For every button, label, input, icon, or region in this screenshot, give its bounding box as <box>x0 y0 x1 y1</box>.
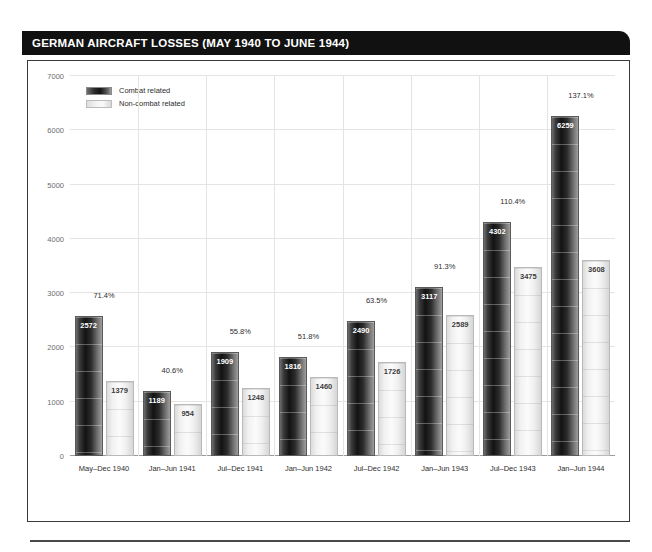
x-axis-tick-label: Jul–Dec 1941 <box>217 464 263 473</box>
bar-combat[interactable]: 1816 <box>279 357 307 456</box>
bar-noncombat[interactable]: 1726 <box>378 362 406 456</box>
bar-value-label: 1909 <box>212 357 238 366</box>
bar-shading <box>379 363 405 455</box>
bottom-divider <box>30 540 630 542</box>
bar-combat[interactable]: 3117 <box>415 287 443 456</box>
bar-shading <box>280 358 306 455</box>
x-axis-tick-label: Jul–Dec 1943 <box>490 464 536 473</box>
category-separator <box>547 76 548 456</box>
y-axis-tick-label: 6000 <box>47 126 64 135</box>
bar-shading <box>447 316 473 455</box>
bar-value-label: 1379 <box>107 386 133 395</box>
bar-value-label: 3475 <box>515 272 541 281</box>
bar-noncombat[interactable]: 1248 <box>242 388 270 456</box>
category-separator <box>138 76 139 456</box>
bar-value-label: 1726 <box>379 367 405 376</box>
percent-annotation: 63.5% <box>366 296 387 305</box>
percent-annotation: 40.6% <box>162 366 183 375</box>
percent-annotation: 91.3% <box>434 262 455 271</box>
bar-noncombat[interactable]: 3475 <box>514 267 542 456</box>
category-separator <box>206 76 207 456</box>
percent-annotation: 71.4% <box>93 291 114 300</box>
bar-value-label: 2490 <box>348 326 374 335</box>
bar-value-label: 1248 <box>243 393 269 402</box>
bar-shading <box>515 268 541 455</box>
bar-value-label: 2589 <box>447 320 473 329</box>
x-axis-tick-label: May–Dec 1940 <box>79 464 129 473</box>
bar-combat[interactable]: 1189 <box>143 391 171 456</box>
y-axis-tick-label: 2000 <box>47 343 64 352</box>
bar-noncombat[interactable]: 1379 <box>106 381 134 456</box>
bar-value-label: 6259 <box>552 121 578 130</box>
chart-panel: Combat related Non-combat related 010002… <box>27 60 630 522</box>
x-axis-tick-label: Jan–Jun 1942 <box>285 464 332 473</box>
x-axis-tick-label: Jan–Jun 1941 <box>149 464 196 473</box>
bar-shading <box>76 317 102 455</box>
percent-annotation: 137.1% <box>568 91 593 100</box>
bar-combat[interactable]: 6259 <box>551 116 579 456</box>
bar-value-label: 1460 <box>311 382 337 391</box>
bar-value-label: 4302 <box>484 227 510 236</box>
y-axis-tick-label: 5000 <box>47 180 64 189</box>
bar-shading <box>416 288 442 455</box>
plot-inner: 010002000300040005000600070002572137971.… <box>70 76 615 456</box>
percent-annotation: 51.8% <box>298 332 319 341</box>
bar-value-label: 3117 <box>416 292 442 301</box>
bar-shading <box>348 322 374 455</box>
bar-value-label: 954 <box>175 409 201 418</box>
bar-shading <box>484 223 510 455</box>
bar-combat[interactable]: 1909 <box>211 352 239 456</box>
x-axis-tick-label: Jul–Dec 1942 <box>354 464 400 473</box>
bar-noncombat[interactable]: 3608 <box>582 260 610 456</box>
y-axis-tick-label: 3000 <box>47 289 64 298</box>
bar-shading <box>583 261 609 455</box>
category-separator <box>343 76 344 456</box>
plot-area: 010002000300040005000600070002572137971.… <box>70 76 615 491</box>
bar-noncombat[interactable]: 1460 <box>310 377 338 456</box>
bar-noncombat[interactable]: 2589 <box>446 315 474 456</box>
bar-value-label: 3608 <box>583 265 609 274</box>
bar-combat[interactable]: 4302 <box>483 222 511 456</box>
percent-annotation: 55.8% <box>230 327 251 336</box>
bar-shading <box>212 353 238 455</box>
bar-combat[interactable]: 2572 <box>75 316 103 456</box>
category-separator <box>274 76 275 456</box>
percent-annotation: 110.4% <box>500 197 525 206</box>
y-axis-tick-label: 1000 <box>47 397 64 406</box>
y-axis-tick-label: 4000 <box>47 234 64 243</box>
page-root: GERMAN AIRCRAFT LOSSES (MAY 1940 TO JUNE… <box>0 0 652 552</box>
y-axis-tick-label: 7000 <box>47 72 64 81</box>
bar-combat[interactable]: 2490 <box>347 321 375 456</box>
bar-noncombat[interactable]: 954 <box>174 404 202 456</box>
category-separator <box>411 76 412 456</box>
page-title: GERMAN AIRCRAFT LOSSES (MAY 1940 TO JUNE… <box>22 37 349 49</box>
bar-shading <box>552 117 578 455</box>
bar-value-label: 2572 <box>76 321 102 330</box>
x-axis-tick-label: Jan–Jun 1944 <box>557 464 604 473</box>
bar-value-label: 1189 <box>144 396 170 405</box>
y-axis-tick-label: 0 <box>60 452 64 461</box>
category-separator <box>479 76 480 456</box>
chart-title-bar: GERMAN AIRCRAFT LOSSES (MAY 1940 TO JUNE… <box>22 31 630 55</box>
x-axis-tick-label: Jan–Jun 1943 <box>421 464 468 473</box>
bar-value-label: 1816 <box>280 362 306 371</box>
